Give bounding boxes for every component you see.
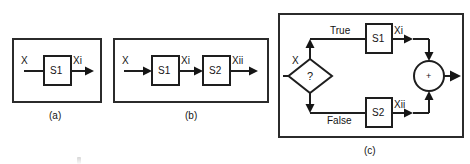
panel-c-xi-arrowhead [404, 35, 413, 44]
panel-c-input-label: X [292, 55, 299, 66]
panel-c-output-arrowhead [450, 71, 461, 82]
panel-c-xi-label: Xi [394, 25, 403, 36]
panel-b-output-arrowhead [249, 67, 258, 76]
scan-artifact [77, 157, 81, 164]
panel-c-xii-label: Xii [394, 99, 405, 110]
panel-b-output-label: Xii [232, 55, 243, 66]
panel-c-true-label: True [330, 25, 351, 36]
panel-b-mid-label: Xi [181, 55, 190, 66]
panel-c-merge-bottom-arrowhead [425, 91, 434, 100]
panel-b-process-s1-label: S1 [158, 65, 171, 76]
panel-c-true-arrowhead-up [306, 39, 315, 48]
panel-c-process-s2-label: S2 [372, 107, 385, 118]
panel-a: X S1 Xi (a) [13, 39, 101, 121]
panel-a-caption: (a) [49, 110, 61, 121]
panel-c-merge-top-arrowhead [425, 52, 434, 61]
panel-a-output-label: Xi [73, 55, 82, 66]
panel-c: X ? True S1 Xi False [279, 14, 463, 156]
panel-b-caption: (b) [185, 110, 197, 121]
panel-c-false-label: False [327, 115, 352, 126]
panel-b-process-s2-label: S2 [209, 65, 222, 76]
panel-c-merge-label: + [426, 71, 431, 81]
panel-b-input-label: X [122, 55, 129, 66]
panel-b: X S1 Xi S2 Xii (b) [114, 39, 268, 121]
process-composition-diagram: X S1 Xi (a) X S1 Xi S2 Xii [0, 0, 470, 164]
panel-c-decision-label: ? [307, 70, 313, 82]
panel-c-false-arrowhead-down [306, 104, 315, 113]
panel-c-process-s1-label: S1 [372, 33, 385, 44]
panel-c-xii-arrowhead [404, 109, 413, 118]
panel-a-output-arrowhead [85, 67, 94, 76]
panel-b-input-arrowhead [143, 67, 152, 76]
panel-b-mid-arrowhead [194, 67, 203, 76]
panel-c-caption: (c) [364, 145, 376, 156]
panel-a-process-s1-label: S1 [50, 65, 63, 76]
panel-a-input-label: X [21, 55, 28, 66]
figure-canvas: X S1 Xi (a) X S1 Xi S2 Xii [0, 0, 470, 164]
